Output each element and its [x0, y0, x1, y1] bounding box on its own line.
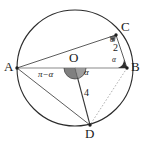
point-label-o: O — [69, 51, 78, 64]
angle-label-alpha-at-o: α — [84, 68, 89, 77]
length-label-od: 4 — [84, 88, 89, 98]
point-label-c: C — [121, 20, 130, 33]
angle-label-pi-minus-alpha: π−α — [38, 70, 53, 79]
point-label-d: D — [85, 127, 94, 140]
length-label-cb: 2 — [113, 43, 118, 53]
segment-ac — [17, 35, 116, 68]
point-marker-a — [15, 66, 18, 69]
point-label-a: A — [4, 60, 13, 73]
segment-bd-dashed — [90, 68, 127, 125]
angle-label-alpha-at-b: α — [112, 56, 116, 64]
point-marker-b — [125, 66, 128, 69]
point-marker-c — [114, 33, 117, 36]
point-label-b: B — [131, 60, 140, 73]
geometry-figure: A B C D O α 2 α π−α α 4 — [0, 0, 148, 141]
